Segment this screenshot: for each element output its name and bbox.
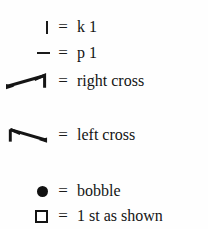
legend-row-left-cross: = left cross [0, 122, 208, 148]
vertical-bar-symbol [0, 14, 52, 40]
equals-sign: = [52, 68, 74, 94]
legend-row-right-cross: = right cross [0, 68, 208, 94]
legend-row-st-as-shown: = 1 st as shown [0, 203, 208, 229]
horizontal-dash-icon [37, 52, 50, 54]
legend-label-bobble: bobble [74, 178, 208, 204]
equals-sign: = [52, 14, 74, 40]
legend-row-p1: = p 1 [0, 40, 208, 66]
horizontal-dash-symbol [0, 40, 52, 66]
filled-circle-icon [37, 186, 48, 197]
equals-sign: = [52, 203, 74, 229]
legend-label-p1: p 1 [74, 40, 208, 66]
equals-sign: = [52, 40, 74, 66]
legend-label-st-as-shown: 1 st as shown [74, 203, 208, 229]
right-cross-cable-symbol [0, 68, 52, 94]
vertical-bar-icon [46, 21, 48, 34]
equals-sign: = [52, 122, 74, 148]
open-square-symbol [0, 203, 52, 229]
right-cross-icon [4, 71, 50, 91]
legend-label-left-cross: left cross [74, 122, 208, 148]
open-square-icon [35, 210, 48, 223]
equals-sign: = [52, 178, 74, 204]
knitting-chart-legend: = k 1 = p 1 = right cross [0, 0, 208, 229]
left-cross-icon [6, 125, 51, 145]
left-cross-cable-symbol [0, 122, 52, 148]
legend-row-bobble: = bobble [0, 178, 208, 204]
filled-circle-symbol [0, 178, 52, 204]
legend-row-k1: = k 1 [0, 14, 208, 40]
legend-label-right-cross: right cross [74, 68, 208, 94]
legend-label-k1: k 1 [74, 14, 208, 40]
